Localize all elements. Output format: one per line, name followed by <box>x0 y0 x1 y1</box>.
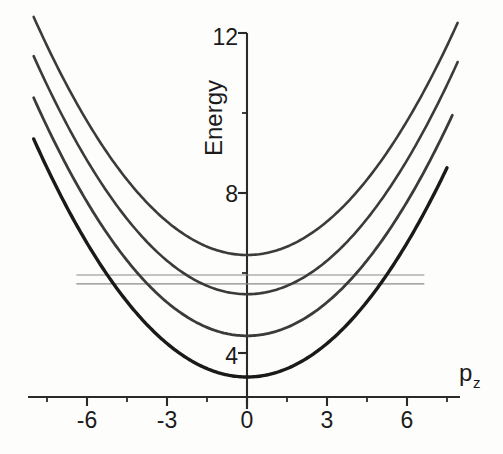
x-tick-label-3: 3 <box>321 407 334 433</box>
y-tick-label-12: 12 <box>212 24 238 50</box>
x-tick-label-zero: 0 <box>241 407 254 433</box>
plot-background <box>0 0 503 454</box>
x-axis-title: p <box>459 359 472 386</box>
energy-dispersion-plot: 12 8 4 -6 -3 0 3 6 Energy p z <box>0 0 503 454</box>
y-tick-label-8: 8 <box>225 181 238 207</box>
x-tick-label-minus6: -6 <box>77 407 97 433</box>
x-tick-label-minus3: -3 <box>157 407 177 433</box>
y-axis-title: Energy <box>200 80 227 156</box>
x-axis-title-subscript: z <box>473 374 481 391</box>
x-tick-label-6: 6 <box>401 407 414 433</box>
chart-figure: 12 8 4 -6 -3 0 3 6 Energy p z <box>0 0 503 454</box>
y-tick-label-4: 4 <box>225 343 238 369</box>
